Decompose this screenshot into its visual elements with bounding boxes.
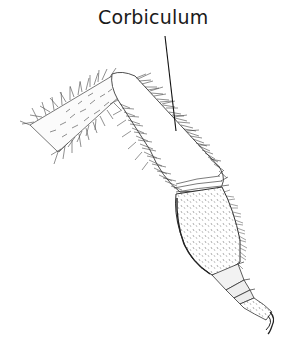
- corbiculum-label: Corbiculum: [98, 5, 208, 29]
- leg-illustration: [0, 0, 304, 340]
- bee-leg-figure: Corbiculum: [0, 0, 304, 340]
- femur: [20, 68, 121, 164]
- tibia-corbiculum: [110, 72, 229, 195]
- basitarsus: [176, 187, 248, 275]
